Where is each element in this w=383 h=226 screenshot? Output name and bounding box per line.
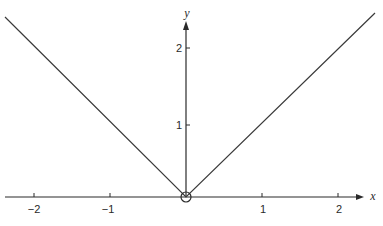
y-tick-label: 2	[176, 42, 182, 54]
x-axis-label: x	[369, 189, 376, 203]
x-tick-label: −1	[102, 203, 115, 215]
x-tick-label: −2	[28, 203, 41, 215]
abs-value-chart: −2 −1 1 2 1 2 x y	[0, 0, 383, 226]
x-axis-arrow-icon	[356, 194, 364, 200]
y-tick-label: 1	[176, 119, 182, 131]
x-tick-label: 1	[260, 203, 266, 215]
y-axis-arrow-icon	[183, 21, 189, 30]
y-ticks	[186, 48, 190, 125]
x-tick-label: 2	[336, 203, 342, 215]
abs-value-line	[5, 13, 375, 197]
y-axis-label: y	[183, 6, 190, 20]
